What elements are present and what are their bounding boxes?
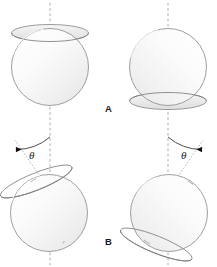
disc-bottom-right <box>117 175 207 267</box>
panel-b-group: B <box>0 159 207 267</box>
disc-top-right <box>130 29 207 110</box>
disc-bottom-left <box>0 159 87 251</box>
angle-right-arc <box>168 137 202 150</box>
disc-top-left-body <box>12 29 89 106</box>
figure-canvas: A θ θ <box>0 0 217 267</box>
disc-top-left <box>12 25 89 106</box>
figure-root: A θ θ <box>0 0 217 267</box>
panel-a-group: A <box>12 25 207 115</box>
panel-label-a: A <box>105 103 112 114</box>
angle-left-arc <box>17 137 51 150</box>
angle-left-theta-symbol: θ <box>29 149 35 161</box>
angle-right-theta-symbol: θ <box>181 149 187 161</box>
panel-label-b: B <box>105 236 112 247</box>
disc-bottom-left-body <box>11 175 88 252</box>
